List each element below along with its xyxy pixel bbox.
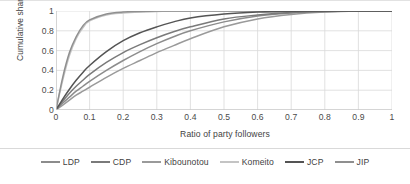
legend-item-ldp[interactable]: LDP bbox=[41, 157, 80, 167]
legend-item-kibounotou[interactable]: Kibounotou bbox=[142, 157, 209, 167]
legend-item-jcp[interactable]: JCP bbox=[285, 157, 324, 167]
legend-item-komeito[interactable]: Komeito bbox=[220, 157, 274, 167]
plot-area bbox=[56, 11, 392, 110]
y-axis-tick-0.6: 0.6 bbox=[20, 46, 54, 56]
legend-label-komeito: Komeito bbox=[242, 157, 274, 167]
chart-container: Cumulative share of users 00.20.40.60.81… bbox=[0, 0, 410, 184]
legend-divider bbox=[0, 148, 410, 149]
legend-item-jip[interactable]: JIP bbox=[335, 157, 370, 167]
legend-item-cdp[interactable]: CDP bbox=[91, 157, 131, 167]
legend-label-cdp: CDP bbox=[113, 157, 131, 167]
y-axis-tick-0.8: 0.8 bbox=[20, 26, 54, 36]
legend-swatch-kibounotou bbox=[142, 161, 161, 163]
chart-top-border bbox=[0, 0, 410, 1]
legend-swatch-cdp bbox=[91, 161, 110, 163]
legend-label-ldp: LDP bbox=[63, 157, 80, 167]
legend-label-jip: JIP bbox=[357, 157, 370, 167]
y-axis-tick-0.2: 0.2 bbox=[20, 85, 54, 95]
y-axis-tick-1: 1 bbox=[20, 6, 54, 16]
plot-svg bbox=[56, 11, 392, 110]
legend-swatch-jip bbox=[335, 161, 354, 163]
x-axis-title: Ratio of party followers bbox=[180, 129, 270, 139]
legend-label-jcp: JCP bbox=[307, 157, 324, 167]
y-axis-tick-0.4: 0.4 bbox=[20, 65, 54, 75]
chart-legend: LDPCDPKibounotouKomeitoJCPJIP bbox=[0, 157, 410, 167]
x-axis-title-wrapper: Ratio of party followers bbox=[0, 129, 410, 139]
legend-swatch-komeito bbox=[220, 161, 239, 163]
legend-swatch-jcp bbox=[285, 161, 304, 163]
legend-swatch-ldp bbox=[41, 161, 60, 163]
legend-label-kibounotou: Kibounotou bbox=[164, 157, 209, 167]
x-axis-tick-1: 1 bbox=[372, 112, 410, 122]
